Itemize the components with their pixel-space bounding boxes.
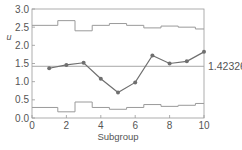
- upper-control-limit: [32, 21, 204, 31]
- center-line-label: 1.42326: [208, 60, 242, 72]
- x-tick-label: 6: [132, 120, 138, 131]
- x-tick-label: 0: [29, 120, 35, 131]
- y-tick-label: 1.0: [15, 76, 29, 87]
- data-point: [47, 66, 51, 70]
- data-point: [116, 91, 120, 95]
- x-axis-label: Subgroup: [97, 131, 138, 142]
- data-point: [64, 63, 68, 67]
- y-tick-label: 1.5: [15, 58, 29, 69]
- data-series: [47, 50, 206, 95]
- y-tick-label: 2.5: [15, 22, 29, 33]
- svg-text:u: u: [6, 32, 11, 42]
- x-tick-label: 4: [98, 120, 104, 131]
- u-control-chart: u 0.00.51.01.52.02.53.0 0246810 1.42326 …: [0, 0, 242, 150]
- data-point: [99, 77, 103, 81]
- x-tick-label: 2: [64, 120, 70, 131]
- y-tick-label: 3.0: [15, 4, 29, 15]
- x-tick-label: 8: [167, 120, 173, 131]
- data-point: [150, 54, 154, 58]
- data-point: [133, 80, 137, 84]
- y-tick-label: 0.5: [15, 94, 29, 105]
- y-tick-label: 2.0: [15, 40, 29, 51]
- y-axis-label: u: [6, 32, 11, 42]
- data-point: [202, 50, 206, 54]
- lower-control-limit: [32, 102, 204, 112]
- y-tick-label: 0.0: [15, 113, 29, 124]
- data-point: [82, 61, 86, 65]
- x-axis-ticks: 0246810: [29, 115, 210, 131]
- x-tick-label: 10: [198, 120, 210, 131]
- data-point: [168, 62, 172, 66]
- data-point: [185, 59, 189, 63]
